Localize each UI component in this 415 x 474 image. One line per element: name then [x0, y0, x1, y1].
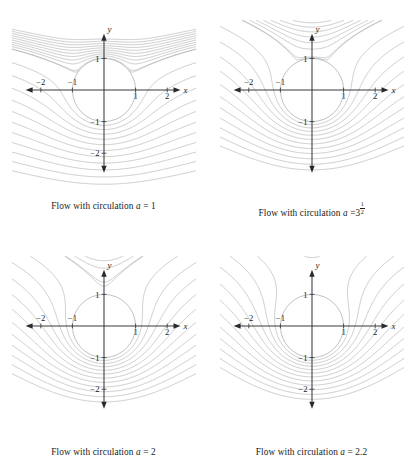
- caption-var-a1: a: [136, 201, 141, 211]
- caption-a2: Flow with circulation a =312: [208, 201, 415, 218]
- axis-arrowhead: [101, 402, 106, 409]
- x-tick-label: −2: [36, 313, 45, 323]
- streamline-plot-a3: −2−1121−1−2xy: [0, 240, 207, 440]
- caption-var-a2: a: [343, 208, 348, 218]
- caption-text-a3: Flow with circulation: [51, 447, 133, 457]
- panel-flow-a2: −2−1121−1xy Flow with circulation a =312: [208, 4, 415, 241]
- y-tick-label: 1: [303, 290, 307, 300]
- caption-eq-a4: =: [348, 447, 353, 457]
- figure-root: −2−1121−1−2xy Flow with circulation a = …: [0, 0, 415, 474]
- x-tick-label: 2: [373, 327, 377, 337]
- axis-arrowhead: [234, 87, 241, 92]
- x-tick-label: 2: [165, 327, 169, 337]
- y-tick-label: −2: [298, 384, 307, 394]
- x-tick-label: −2: [244, 313, 253, 323]
- caption-text-a4: Flow with circulation: [256, 447, 338, 457]
- axis-arrowhead: [234, 323, 241, 328]
- x-axis-label: x: [182, 85, 187, 95]
- exponent-denominator-a2: 2: [360, 209, 364, 216]
- x-axis-label: x: [182, 321, 187, 331]
- y-tick-label: −2: [90, 384, 99, 394]
- caption-var-a3: a: [136, 447, 141, 457]
- x-tick-label: −2: [36, 77, 45, 87]
- y-axis-label: y: [315, 260, 320, 270]
- y-tick-label: 1: [303, 54, 307, 64]
- plot-area-a3: −2−1121−1−2xy: [0, 240, 207, 440]
- x-tick-label: 1: [341, 327, 345, 337]
- y-axis-label: y: [107, 24, 112, 34]
- x-tick-label: 1: [133, 91, 137, 101]
- caption-eq-a1: =: [143, 201, 148, 211]
- x-tick-label: −2: [244, 77, 253, 87]
- x-tick-label: −1: [276, 77, 285, 87]
- axis-arrowhead: [309, 166, 314, 173]
- streamline-plot-a4: −2−1121−1−2xy: [208, 240, 415, 440]
- axis-arrowhead: [381, 323, 388, 328]
- caption-exponent-a2: 12: [360, 201, 364, 215]
- caption-value-a1: 1: [151, 201, 156, 211]
- streamline-plot-a2: −2−1121−1xy: [208, 4, 415, 204]
- plot-area-a4: −2−1121−1−2xy: [208, 240, 415, 440]
- axis-arrowhead: [381, 87, 388, 92]
- axis-arrowhead: [173, 87, 180, 92]
- x-axis-label: x: [390, 85, 395, 95]
- y-tick-label: −2: [90, 148, 99, 158]
- y-tick-label: 1: [95, 290, 99, 300]
- caption-text-a1: Flow with circulation: [51, 201, 133, 211]
- axis-arrowhead: [101, 34, 106, 41]
- caption-value-a3: 2: [151, 447, 156, 457]
- y-axis-label: y: [107, 260, 112, 270]
- caption-a3: Flow with circulation a = 2: [0, 447, 207, 457]
- y-tick-label: 1: [95, 54, 99, 64]
- x-tick-label: 2: [165, 91, 169, 101]
- y-axis-label: y: [315, 24, 320, 34]
- streamline-plot-a1: −2−1121−1−2xy: [0, 4, 207, 204]
- panel-flow-a4: −2−1121−1−2xy Flow with circulation a = …: [208, 240, 415, 474]
- y-tick-label: −1: [90, 117, 99, 127]
- x-tick-label: 2: [373, 91, 377, 101]
- panel-flow-a1: −2−1121−1−2xy Flow with circulation a = …: [0, 4, 207, 241]
- x-tick-label: −1: [68, 313, 77, 323]
- caption-eq-a3: =: [143, 447, 148, 457]
- caption-text-a2: Flow with circulation: [258, 208, 340, 218]
- exponent-numerator-a2: 1: [360, 201, 364, 209]
- caption-a1: Flow with circulation a = 1: [0, 201, 207, 211]
- axis-arrowhead: [309, 402, 314, 409]
- y-tick-label: −1: [298, 117, 307, 127]
- x-tick-label: 1: [341, 91, 345, 101]
- plot-area-a2: −2−1121−1xy: [208, 4, 415, 204]
- x-axis-label: x: [390, 321, 395, 331]
- axis-arrowhead: [101, 270, 106, 277]
- x-tick-label: 1: [133, 327, 137, 337]
- caption-value-a4: 2.2: [355, 447, 367, 457]
- plot-area-a1: −2−1121−1−2xy: [0, 4, 207, 204]
- panel-flow-a3: −2−1121−1−2xy Flow with circulation a = …: [0, 240, 207, 474]
- caption-var-a4: a: [340, 447, 345, 457]
- axis-arrowhead: [101, 166, 106, 173]
- axis-arrowhead: [26, 323, 33, 328]
- caption-a4: Flow with circulation a = 2.2: [208, 447, 415, 457]
- axis-arrowhead: [309, 270, 314, 277]
- x-tick-label: −1: [68, 77, 77, 87]
- axis-arrowhead: [26, 87, 33, 92]
- x-tick-label: −1: [276, 313, 285, 323]
- y-tick-label: −1: [90, 353, 99, 363]
- y-tick-label: −1: [298, 353, 307, 363]
